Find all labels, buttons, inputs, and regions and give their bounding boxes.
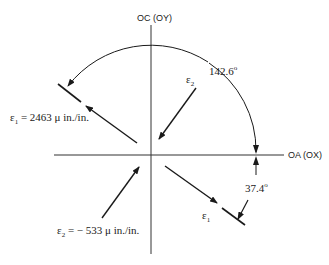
arrow-up-icon — [253, 156, 259, 165]
angle-label-142: 142.6o — [209, 65, 237, 77]
degree-symbol: o — [264, 181, 268, 189]
e1-gauge-line-lower — [222, 208, 245, 225]
angle-37-pointer — [238, 200, 248, 219]
e2-arrow-label: ε2 — [186, 74, 194, 88]
e2-arrow-upper — [159, 88, 196, 139]
e1-arrow-lower — [165, 166, 217, 203]
angle-value-37: 37.4 — [245, 182, 264, 194]
subscript: 1 — [207, 216, 211, 224]
e1-arrow-label: ε1 — [202, 210, 210, 224]
arc-arrow-down-icon — [253, 145, 259, 154]
axis-label-oa-ox: OA (OX) — [288, 151, 322, 160]
axis-label-oc-oy: OC (OY) — [137, 14, 172, 23]
degree-symbol: o — [234, 64, 238, 72]
e1-value-label: ε1 = 2463 μ in./in. — [10, 112, 89, 126]
e1-value: = 2463 μ in./in. — [18, 111, 89, 123]
e2-arrow-lower — [102, 167, 139, 218]
e2-value-label: ε2 = − 533 μ in./in. — [57, 225, 139, 239]
angle-label-37: 37.4o — [245, 182, 268, 194]
e1-gauge-line-upper — [58, 84, 81, 102]
subscript: 2 — [191, 80, 195, 88]
e2-value: = − 533 μ in./in. — [65, 224, 139, 236]
e1-arrow-upper — [86, 106, 137, 143]
strain-diagram — [0, 0, 329, 265]
angle-value-142: 142.6 — [209, 65, 234, 77]
